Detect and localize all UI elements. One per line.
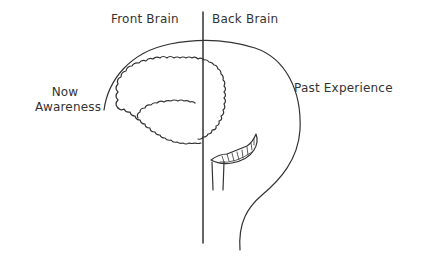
inner-fold xyxy=(137,100,195,118)
front-brain-label: Front Brain xyxy=(111,12,179,26)
now-awareness-line1: Now xyxy=(35,85,95,100)
cerebrum-outline xyxy=(116,57,226,140)
now-awareness-label: Now Awareness xyxy=(35,85,95,115)
past-experience-label: Past Experience xyxy=(294,81,393,95)
now-awareness-line2: Awareness xyxy=(35,100,95,115)
brain-diagram: Front Brain Back Brain Now Awareness Pas… xyxy=(0,0,431,256)
cerebellum xyxy=(211,134,257,164)
brain-stem xyxy=(212,162,224,190)
skull-outline xyxy=(104,41,300,250)
cerebrum-lower-edge xyxy=(118,108,201,144)
brain-drawing xyxy=(0,0,431,256)
back-brain-label: Back Brain xyxy=(212,12,278,26)
